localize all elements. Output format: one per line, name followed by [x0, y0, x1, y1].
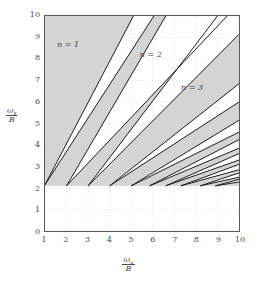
y-axis-label-subscript: s	[14, 110, 17, 116]
x-axis-label-subscript: u	[130, 259, 134, 265]
y-tick-label: 1	[35, 206, 40, 214]
y-tick-label: 4	[35, 141, 40, 149]
x-tick-label: 4	[107, 236, 112, 244]
y-axis-label: ωs B	[6, 107, 17, 126]
y-tick-label: 8	[35, 54, 40, 62]
y-tick-label: 0	[35, 228, 40, 236]
y-tick-label: 7	[35, 76, 40, 84]
y-tick-label: 9	[35, 33, 40, 41]
y-tick-label: 2	[35, 185, 40, 193]
x-axis-label-denominator: B	[122, 265, 134, 273]
y-axis-label-denominator: B	[6, 116, 17, 124]
y-tick-label: 3	[35, 163, 40, 171]
x-tick-label: 6	[150, 236, 155, 244]
annotation-n2: n = 2	[140, 50, 162, 59]
figure-container: 10 9 8 7 6 5 4 3 2 1 0 1 2 3 4 5 6 7 8 9…	[0, 0, 257, 288]
y-tick-label: 10	[30, 11, 40, 19]
y-tick-label: 5	[35, 120, 40, 128]
x-tick-label: 3	[85, 236, 90, 244]
omega-glyph: ω	[123, 255, 130, 264]
x-tick-label: 5	[129, 236, 134, 244]
x-tick-label: 7	[172, 236, 177, 244]
annotation-n1: n = 1	[57, 40, 79, 49]
x-axis-label-fraction: ωu B	[122, 256, 134, 274]
x-axis-label: ωu B	[0, 256, 257, 275]
x-tick-label: 9	[216, 236, 221, 244]
omega-glyph: ω	[7, 106, 14, 115]
annotation-n3: n = 3	[181, 83, 203, 92]
x-axis-tick-labels: 1 2 3 4 5 6 7 8 9 10	[0, 236, 257, 250]
x-tick-label: 1	[41, 236, 46, 244]
x-tick-label: 8	[194, 236, 199, 244]
x-tick-label: 10	[235, 236, 245, 244]
x-tick-label: 2	[63, 236, 68, 244]
y-tick-label: 6	[35, 98, 40, 106]
y-axis-label-fraction: ωs B	[6, 107, 17, 125]
